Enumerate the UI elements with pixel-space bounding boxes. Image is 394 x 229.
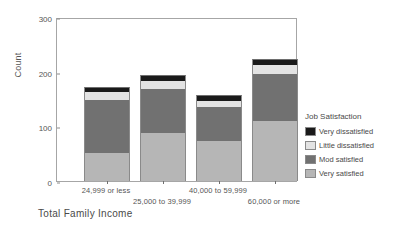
bar-segment [140, 81, 186, 89]
bar-segment [84, 100, 130, 153]
bar-segment [84, 92, 130, 100]
x-axis-tick-label: 25,000 to 39,999 [133, 197, 191, 206]
bar-segment [196, 141, 242, 181]
legend: Job Satisfaction Very dissatisfiedLittle… [305, 112, 394, 183]
y-axis-tick-label: 200 [39, 69, 57, 78]
legend-item: Very dissatisfied [305, 127, 394, 136]
legend-item-label: Little dissatisfied [319, 141, 374, 150]
x-axis-tick-label: 60,000 or more [248, 197, 300, 206]
bar-segment [252, 121, 298, 181]
legend-item-label: Mod satisfied [319, 155, 363, 164]
x-axis-tick-label: 24,999 or less [82, 186, 131, 195]
y-axis-tick-label: 300 [39, 15, 57, 24]
legend-swatch [305, 169, 316, 178]
y-axis-tick-mark [57, 183, 60, 184]
bar-stack [84, 87, 130, 181]
stacked-bar-chart: Count 3002001000 Total Family Income Job… [0, 0, 394, 229]
y-axis-tick-mark [57, 128, 60, 129]
bar-segment [84, 153, 130, 181]
y-axis-tick-mark [57, 73, 60, 74]
legend-swatch [305, 127, 316, 136]
legend-item-label: Very dissatisfied [319, 127, 373, 136]
bar-segment [196, 107, 242, 141]
legend-swatch [305, 141, 316, 150]
legend-item-list: Very dissatisfiedLittle dissatisfiedMod … [305, 127, 394, 178]
x-axis-tick-mark [107, 181, 108, 184]
legend-item: Mod satisfied [305, 155, 394, 164]
bar-segment [252, 74, 298, 121]
bar-stack [252, 59, 298, 181]
y-axis-tick-mark [57, 19, 60, 20]
x-axis-title: Total Family Income [38, 208, 133, 219]
y-axis-title: Count [13, 35, 23, 95]
x-axis-tick-mark [219, 181, 220, 184]
y-axis-tick-label: 100 [39, 124, 57, 133]
x-axis-tick-mark [275, 181, 276, 184]
legend-item: Little dissatisfied [305, 141, 394, 150]
legend-swatch [305, 155, 316, 164]
x-axis-tick-mark [163, 181, 164, 184]
legend-title: Job Satisfaction [305, 112, 394, 121]
bar-segment [140, 133, 186, 181]
bar-segment [252, 65, 298, 74]
x-axis-tick-label: 40,000 to 59,999 [189, 186, 247, 195]
bar-stack [196, 95, 242, 181]
bar-segment [140, 89, 186, 133]
bar-stack [140, 75, 186, 181]
y-axis-tick-label: 0 [48, 179, 57, 188]
legend-item: Very satisfied [305, 169, 394, 178]
legend-item-label: Very satisfied [319, 169, 364, 178]
plot-area: 3002001000 [56, 18, 297, 182]
